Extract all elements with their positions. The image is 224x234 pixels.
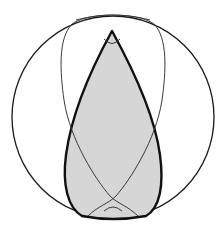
diagram-canvas <box>0 0 224 234</box>
shaded-teardrop-region <box>65 31 162 219</box>
